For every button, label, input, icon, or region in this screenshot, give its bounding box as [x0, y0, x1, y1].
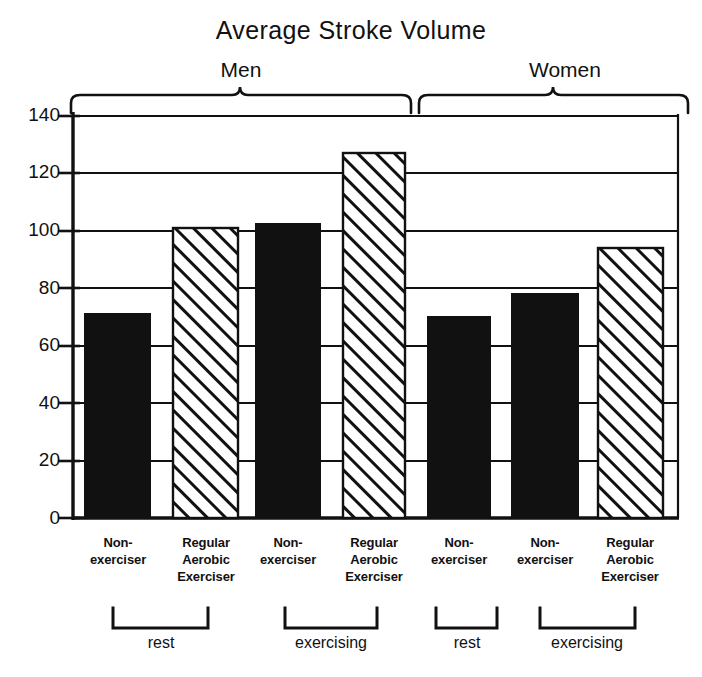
bar-label-women-exercising-nonexerciser: Non- exerciser	[499, 534, 591, 568]
bar-women-exercising-nonexerciser	[512, 294, 578, 518]
bar-label-line3: Exerciser	[160, 568, 252, 585]
bar-label-line2: Aerobic	[584, 551, 676, 568]
condition-bracket-women-rest	[436, 608, 497, 628]
bar-men-rest-regular-aerobic-exerciser	[173, 228, 238, 518]
bar-label-line2: Aerobic	[160, 551, 252, 568]
bar-label-line1: Non-	[242, 534, 334, 551]
chart-figure: Average Stroke Volume Men Women 140 120 …	[0, 0, 702, 677]
bar-label-line2: Aerobic	[328, 551, 420, 568]
bar-label-men-rest-regular-aerobic-exerciser: Regular Aerobic Exerciser	[160, 534, 252, 585]
bar-men-rest-nonexerciser	[85, 314, 150, 518]
condition-label-men-exercising: exercising	[278, 634, 384, 652]
bar-men-exercising-regular-aerobic-exerciser	[343, 153, 405, 518]
bar-men-exercising-nonexerciser	[256, 224, 320, 518]
condition-label-women-exercising: exercising	[534, 634, 640, 652]
bar-label-women-exercising-regular-aerobic-exerciser: Regular Aerobic Exerciser	[584, 534, 676, 585]
group-brace-women	[419, 87, 688, 113]
bar-label-line1: Non-	[499, 534, 591, 551]
bar-women-exercising-regular-aerobic-exerciser	[598, 248, 663, 518]
bar-label-men-rest-nonexerciser: Non- exerciser	[72, 534, 164, 568]
bar-label-line1: Non-	[413, 534, 505, 551]
bar-women-rest-nonexerciser	[428, 317, 490, 518]
condition-label-men-rest: rest	[120, 634, 202, 652]
bar-label-line1: Regular	[584, 534, 676, 551]
condition-bracket-women-exercising	[540, 608, 635, 628]
condition-bracket-men-exercising	[285, 608, 377, 628]
condition-bracket-men-rest	[113, 608, 208, 628]
group-brace-men	[71, 87, 411, 113]
bar-label-line3: Exerciser	[584, 568, 676, 585]
y-axis-ticks	[58, 116, 80, 518]
bar-label-line1: Non-	[72, 534, 164, 551]
bar-label-line1: Regular	[160, 534, 252, 551]
bar-label-women-rest-nonexerciser: Non- exerciser	[413, 534, 505, 568]
bar-label-line2: exerciser	[72, 551, 164, 568]
bar-label-men-exercising-regular-aerobic-exerciser: Regular Aerobic Exerciser	[328, 534, 420, 585]
bar-label-line2: exerciser	[242, 551, 334, 568]
bar-label-line1: Regular	[328, 534, 420, 551]
bar-label-men-exercising-nonexerciser: Non- exerciser	[242, 534, 334, 568]
bar-label-line3: Exerciser	[328, 568, 420, 585]
bar-label-line2: exerciser	[499, 551, 591, 568]
bar-label-line2: exerciser	[413, 551, 505, 568]
condition-label-women-rest: rest	[426, 634, 508, 652]
